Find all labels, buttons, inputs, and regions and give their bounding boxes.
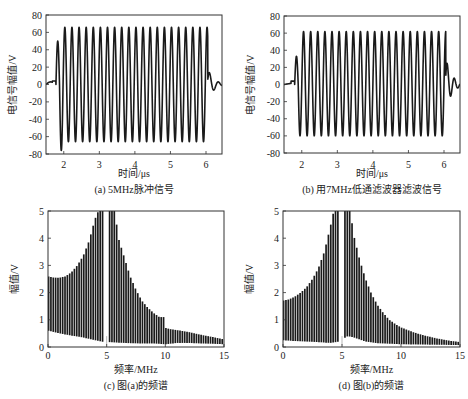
x-tick-label: 2	[299, 159, 304, 170]
x-axis-label: 时间/μs	[118, 167, 150, 179]
x-tick-label: 3	[335, 159, 340, 170]
panel-caption: (a) 5MHz脉冲信号	[94, 183, 173, 196]
y-tick-label: 0	[39, 342, 44, 353]
y-tick-label: 5	[274, 206, 279, 217]
y-tick-label: 4	[39, 233, 44, 244]
y-tick-label: 5	[39, 206, 44, 217]
x-axis-label: 频率/MHz	[114, 363, 158, 375]
y-tick-label: 1	[39, 314, 44, 325]
x-tick-label: 10	[160, 350, 170, 361]
y-tick-label: 20	[270, 62, 280, 73]
y-axis-label: 幅值/V	[243, 263, 255, 294]
chart-d-spectrum-of-b: 012345051015频率/MHz幅值/V(d) 图(b)的频谱	[243, 206, 465, 393]
x-tick-label: 6	[442, 159, 447, 170]
x-tick-label: 5	[104, 350, 109, 361]
x-tick-label: 5	[168, 159, 173, 170]
plot-area	[284, 32, 460, 136]
y-tick-label: 0	[37, 79, 42, 90]
y-axis-label: 电信号幅值/V	[6, 54, 18, 115]
waveform-line	[46, 27, 222, 150]
y-tick-label: 60	[32, 27, 42, 38]
plot-area	[46, 27, 222, 150]
chart-c-spectrum-of-a: 012345051015频率/MHz幅值/V(c) 图(a)的频谱	[8, 206, 229, 393]
y-tick-label: 2	[274, 287, 279, 298]
figure: -80-60-40-2002040608023456时间/μs电信号幅值/V(a…	[0, 0, 468, 399]
x-tick-label: 15	[219, 350, 229, 361]
y-tick-label: 60	[270, 28, 280, 39]
y-tick-label: 0	[274, 342, 279, 353]
y-tick-label: 4	[274, 233, 279, 244]
x-tick-label: 5	[406, 159, 411, 170]
y-tick-label: 40	[270, 45, 280, 56]
panel-caption: (c) 图(a)的频谱	[104, 379, 169, 392]
y-tick-label: -80	[29, 149, 42, 160]
x-axis-label: 时间/μs	[356, 167, 388, 179]
y-tick-label: -80	[267, 148, 280, 159]
x-tick-label: 10	[396, 350, 406, 361]
y-tick-label: -40	[267, 113, 280, 124]
x-tick-label: 3	[97, 159, 102, 170]
x-tick-label: 0	[46, 350, 51, 361]
x-tick-label: 2	[61, 159, 66, 170]
y-tick-label: 3	[39, 260, 44, 271]
y-tick-label: -40	[29, 114, 42, 125]
x-axis-label: 频率/MHz	[350, 363, 394, 375]
chart-b-waveform-7mhz-lowpass-filtered: -80-60-40-2002040608023456时间/μs电信号幅值/V(b…	[244, 11, 460, 197]
y-axis-label: 电信号幅值/V	[244, 54, 256, 115]
x-tick-label: 0	[281, 350, 286, 361]
plot-area	[49, 211, 223, 346]
y-tick-label: -20	[29, 96, 42, 107]
y-tick-label: -60	[267, 130, 280, 141]
y-tick-label: 3	[274, 260, 279, 271]
y-tick-label: 80	[270, 11, 280, 22]
panel-caption: (d) 图(b)的频谱	[339, 379, 405, 392]
chart-a-waveform-5mhz-pulse: -80-60-40-2002040608023456时间/μs电信号幅值/V(a…	[6, 10, 222, 197]
y-tick-label: 1	[274, 314, 279, 325]
y-tick-label: 20	[32, 62, 42, 73]
plot-area	[284, 211, 459, 346]
y-tick-label: 2	[39, 287, 44, 298]
y-tick-label: 0	[275, 79, 280, 90]
waveform-line	[284, 32, 460, 136]
x-tick-label: 15	[455, 350, 465, 361]
y-tick-label: 40	[32, 44, 42, 55]
y-axis-label: 幅值/V	[8, 263, 20, 294]
x-tick-label: 5	[340, 350, 345, 361]
y-tick-label: -60	[29, 131, 42, 142]
panel-caption: (b) 用7MHz低通滤波器滤波信号	[302, 183, 442, 196]
x-tick-label: 6	[204, 159, 209, 170]
y-tick-label: -20	[267, 96, 280, 107]
y-tick-label: 80	[32, 10, 42, 21]
